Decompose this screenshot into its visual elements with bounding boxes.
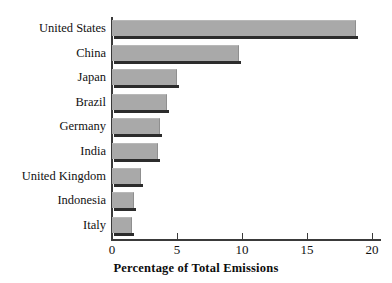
tick-label: 0	[92, 242, 132, 258]
bar-shadow	[114, 184, 143, 187]
category-label: United States	[0, 21, 106, 35]
tick-label: 5	[157, 242, 197, 258]
bar-shadow	[114, 36, 358, 39]
bar-fill	[112, 118, 160, 134]
bar-shadow	[114, 208, 136, 211]
bar-india	[112, 141, 158, 165]
category-label: China	[0, 46, 106, 60]
bar-germany	[112, 116, 160, 140]
bar-shadow	[114, 134, 162, 137]
bar-fill	[112, 69, 177, 85]
bar-shadow	[114, 159, 160, 162]
bar-italy	[112, 215, 132, 239]
bar-fill	[112, 192, 134, 208]
tick-mark	[372, 233, 373, 239]
bar-fill	[112, 20, 356, 36]
tick-mark	[112, 233, 113, 239]
category-label: Japan	[0, 70, 106, 84]
category-label: Indonesia	[0, 193, 106, 207]
category-label: United Kingdom	[0, 169, 106, 183]
tick-mark	[307, 233, 308, 239]
bar-fill	[112, 143, 158, 159]
bar-shadow	[114, 85, 179, 88]
category-label: Italy	[0, 218, 106, 232]
bar-brazil	[112, 92, 167, 116]
bar-shadow	[114, 110, 169, 113]
bar-shadow	[114, 233, 134, 236]
bar-fill	[112, 94, 167, 110]
bar-indonesia	[112, 190, 134, 214]
bar-united-kingdom	[112, 166, 141, 190]
bar-japan	[112, 67, 177, 91]
category-label: India	[0, 144, 106, 158]
bar-shadow	[114, 61, 241, 64]
bar-united-states	[112, 18, 356, 42]
x-axis-title: Percentage of Total Emissions	[0, 261, 392, 276]
bar-china	[112, 43, 239, 67]
bar-fill	[112, 168, 141, 184]
category-label: Brazil	[0, 95, 106, 109]
tick-mark	[242, 233, 243, 239]
tick-label: 20	[352, 242, 392, 258]
bar-fill	[112, 45, 239, 61]
tick-label: 15	[287, 242, 327, 258]
tick-label: 10	[222, 242, 262, 258]
tick-mark	[177, 233, 178, 239]
bar-chart: ItalyIndonesiaUnited KingdomIndiaGermany…	[0, 0, 392, 283]
category-label: Germany	[0, 119, 106, 133]
bar-fill	[112, 217, 132, 233]
x-axis-line	[111, 239, 381, 241]
